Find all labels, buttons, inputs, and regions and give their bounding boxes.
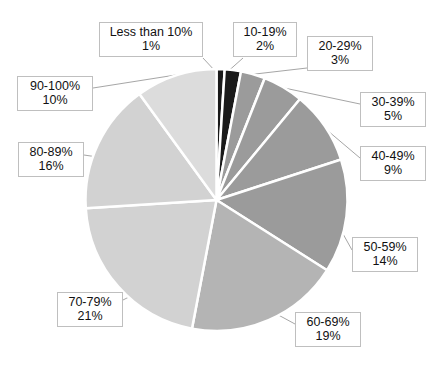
pie-label-category: 80-89% <box>23 145 79 159</box>
pie-label-category: 90-100% <box>22 79 88 93</box>
pie-label-70-79: 70-79% 21% <box>57 292 123 327</box>
pie-label-value: 1% <box>104 39 198 53</box>
pie-label-value: 9% <box>365 163 421 177</box>
pie-label-less-than-10: Less than 10% 1% <box>99 22 203 57</box>
pie-label-value: 19% <box>300 329 356 343</box>
pie-label-category: 10-19% <box>238 25 292 39</box>
pie-label-80-89: 80-89% 16% <box>18 142 84 177</box>
pie-chart: Less than 10% 1% 10-19% 2% 20-29% 3% 30-… <box>0 0 434 370</box>
pie-label-20-29: 20-29% 3% <box>307 36 373 71</box>
pie-label-50-59: 50-59% 14% <box>352 237 418 272</box>
pie-label-category: 20-29% <box>312 39 368 53</box>
pie-label-10-19: 10-19% 2% <box>233 22 297 57</box>
pie-label-category: 70-79% <box>62 295 118 309</box>
pie-label-value: 21% <box>62 309 118 323</box>
pie-label-90-100: 90-100% 10% <box>17 76 93 111</box>
pie-label-category: Less than 10% <box>104 25 198 39</box>
pie-label-60-69: 60-69% 19% <box>295 312 361 347</box>
pie-label-value: 3% <box>312 53 368 67</box>
pie-label-40-49: 40-49% 9% <box>360 146 426 181</box>
pie-label-value: 10% <box>22 93 88 107</box>
pie-label-category: 50-59% <box>357 240 413 254</box>
pie-label-value: 2% <box>238 39 292 53</box>
pie-label-value: 5% <box>365 109 421 123</box>
pie-label-category: 60-69% <box>300 315 356 329</box>
pie-slices-group <box>86 69 348 331</box>
pie-label-category: 40-49% <box>365 149 421 163</box>
pie-label-30-39: 30-39% 5% <box>360 92 426 127</box>
pie-label-value: 14% <box>357 254 413 268</box>
pie-label-value: 16% <box>23 159 79 173</box>
pie-label-category: 30-39% <box>365 95 421 109</box>
